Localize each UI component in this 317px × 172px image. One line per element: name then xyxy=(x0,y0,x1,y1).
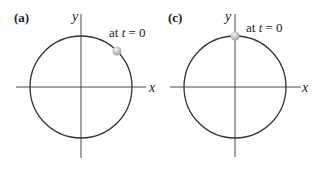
ball-icon-a xyxy=(113,47,122,56)
panel-c: (c) x y at t = 0 xyxy=(168,9,309,157)
y-label-c: y xyxy=(223,9,232,24)
annotation-c: at t = 0 xyxy=(246,20,283,35)
panel-label-a: (a) xyxy=(14,10,29,25)
x-label-a: x xyxy=(148,80,156,95)
annotation-a: at t = 0 xyxy=(109,25,146,40)
ball-icon-c xyxy=(231,32,240,41)
panel-label-c: (c) xyxy=(168,10,182,25)
y-label-a: y xyxy=(70,9,79,24)
x-label-c: x xyxy=(301,80,309,95)
panel-a: (a) x y at t = 0 xyxy=(14,9,156,158)
